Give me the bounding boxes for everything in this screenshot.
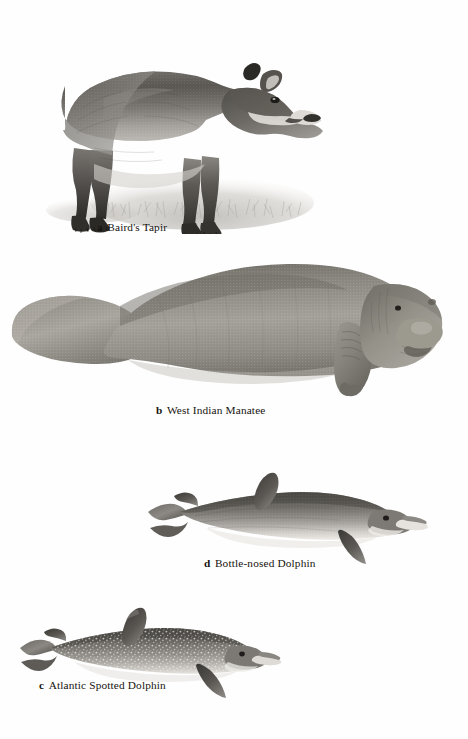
illustration-plate-page: aBaird's Tapir	[0, 0, 468, 739]
figure-b-name: West Indian Manatee	[167, 404, 266, 416]
bottlenose-head	[368, 510, 428, 537]
figure-c-caption: cAtlantic Spotted Dolphin	[39, 679, 166, 692]
figure-b-caption: bWest Indian Manatee	[156, 404, 266, 417]
figure-d-name: Bottle-nosed Dolphin	[215, 557, 316, 569]
figure-a-caption: aBaird's Tapir	[97, 221, 167, 234]
spotted-head	[224, 646, 281, 673]
figure-a-label: a	[97, 221, 103, 233]
figure-a-name: Baird's Tapir	[107, 221, 167, 233]
figure-b-label: b	[156, 404, 162, 416]
figure-c-name: Atlantic Spotted Dolphin	[49, 679, 166, 691]
tapir-illustration	[34, 38, 334, 234]
manatee-illustration	[8, 262, 444, 402]
figure-d-label: d	[204, 557, 210, 569]
tapir-head	[221, 63, 323, 138]
figure-c-label: c	[39, 679, 44, 691]
figure-d-caption: dBottle-nosed Dolphin	[204, 557, 316, 570]
manatee-head	[360, 284, 443, 368]
bottlenose-dolphin-illustration	[146, 468, 430, 568]
